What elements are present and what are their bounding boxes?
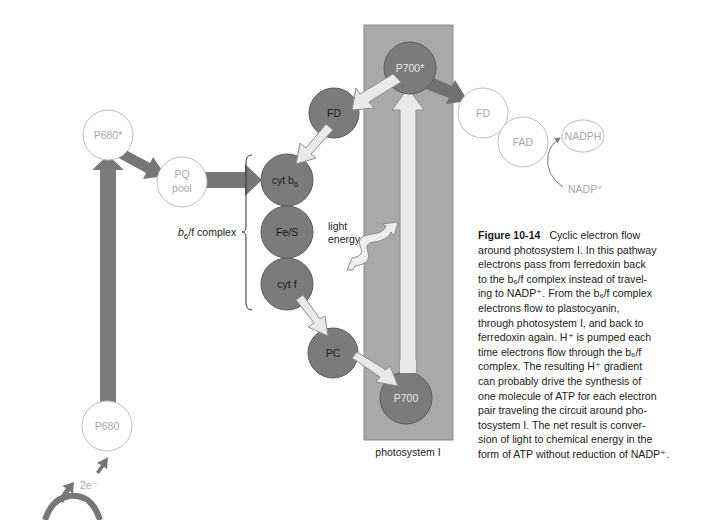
caption-line: ferredoxin again. H⁺ is pumped each <box>478 330 718 345</box>
light-label: light <box>328 220 347 232</box>
fd-noncyclic-label: FD <box>476 107 490 119</box>
pq-label: PQ <box>174 168 189 180</box>
water-splitting-arrow <box>58 482 74 503</box>
pq-to-cytb6-arrow <box>200 164 262 196</box>
photosystem-i-label: photosystem I <box>375 446 440 458</box>
two-electrons-label: 2e⁻ <box>80 479 98 491</box>
nadp-to-nadph-arrow <box>548 138 563 187</box>
b6f-complex-label: b6/f complex <box>178 226 237 241</box>
figure-number: Figure 10-14 <box>478 229 540 241</box>
fe-s-label: Fe/S <box>276 226 298 238</box>
caption-line: one molecule of ATP for each electron <box>478 389 718 404</box>
caption-line-0: Figure 10-14 Cyclic electron flow <box>478 228 718 243</box>
p700-label: P700 <box>394 392 419 404</box>
caption-line: to the b₆/f complex instead of travel- <box>478 272 718 287</box>
caption-line: sion of light to chemical energy in the <box>478 432 718 447</box>
caption-line: around photosystem I. In this pathway <box>478 243 718 258</box>
p700-star-label: P700* <box>396 62 425 74</box>
pc-label: PC <box>326 347 341 359</box>
cytf-to-pc-arrow <box>296 295 328 336</box>
nadph-label: NADPH <box>565 130 602 142</box>
two-electron-arrow <box>96 457 108 474</box>
caption-line: through photosystem I, and back to <box>478 316 718 331</box>
fd-cyclic-label: FD <box>327 107 341 119</box>
caption-line: can probably drive the synthesis of <box>478 374 718 389</box>
caption-line: form of ATP without reduction of NADP⁺. <box>478 447 718 462</box>
nadp-plus-label: NADP⁺ <box>568 183 603 195</box>
figure-caption: Figure 10-14 Cyclic electron flow around… <box>478 228 718 462</box>
energy-label: energy <box>328 233 361 245</box>
cyt-f-label: cyt f <box>277 278 296 290</box>
caption-line: electrons pass from ferredoxin back <box>478 257 718 272</box>
caption-line: time electrons flow through the b₆/f <box>478 345 718 360</box>
p680-label: P680 <box>95 420 120 432</box>
p680-excitation-arrow <box>92 155 124 405</box>
pool-label: pool <box>172 182 192 194</box>
caption-line: electrons flow to plastocyanin, <box>478 301 718 316</box>
caption-line: tosystem I. The net result is conver- <box>478 418 718 433</box>
fd-to-cytb6-arrow <box>296 124 333 164</box>
caption-line: ing to NADP⁺. From the b₆/f complex <box>478 286 718 301</box>
fad-label: FAD <box>513 136 534 148</box>
caption-line: complex. The resulting H⁺ gradient <box>478 359 718 374</box>
caption-line: pair traveling the circuit around pho- <box>478 403 718 418</box>
water-splitting-arc <box>45 496 100 520</box>
p680-star-label: P680* <box>94 129 123 141</box>
